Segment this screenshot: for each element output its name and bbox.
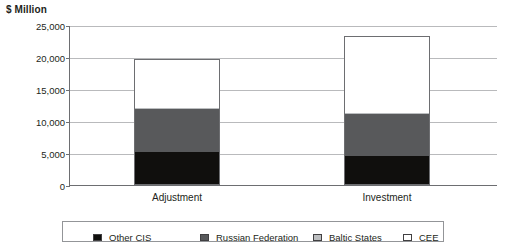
y-axis-tick-mark [66,58,70,59]
legend-label: Other CIS [109,232,151,243]
x-axis-label: Investment [282,192,492,203]
y-axis-tick-label: 10,000 [36,117,65,128]
legend-swatch-icon [403,234,412,241]
y-axis-tick-mark [66,122,70,123]
gridline [70,26,497,27]
legend-item[interactable]: Other CIS [93,232,151,243]
y-axis-tick-label: 5,000 [41,149,65,160]
legend-item[interactable]: CEE [403,232,439,243]
legend-swatch-icon [313,234,322,241]
legend-label: CEE [419,232,439,243]
y-axis-tick-mark [66,90,70,91]
y-axis-tick-label: 15,000 [36,85,65,96]
bar-segment[interactable] [345,37,429,113]
y-axis-tick-mark [66,26,70,27]
bar-investment[interactable]: Investment [344,36,430,185]
y-axis-tick-mark [66,186,70,187]
y-axis-tick-label: 20,000 [36,53,65,64]
legend-swatch-icon [200,234,209,241]
y-axis-title: $ Million [6,4,47,15]
bar-segment[interactable] [135,152,219,184]
y-axis-tick-label: 25,000 [36,21,65,32]
plot-area: 25,00020,00015,00010,0005,0000 Adjustmen… [69,26,497,186]
legend-swatch-icon [93,234,102,241]
y-axis-tick-label: 0 [60,181,65,192]
legend-item[interactable]: Baltic States [313,232,382,243]
legend-label: Baltic States [329,232,382,243]
legend-item[interactable]: Russian Federation [200,232,298,243]
bar-adjustment[interactable]: Adjustment [134,59,220,185]
x-axis-label: Adjustment [72,192,282,203]
bar-segment[interactable] [345,114,429,156]
bar-segment[interactable] [135,60,219,108]
y-axis-tick-mark [66,154,70,155]
bar-segment[interactable] [345,156,429,184]
chart-legend: Other CISRussian FederationBaltic States… [62,221,444,242]
legend-label: Russian Federation [216,232,298,243]
bar-segment[interactable] [135,109,219,152]
